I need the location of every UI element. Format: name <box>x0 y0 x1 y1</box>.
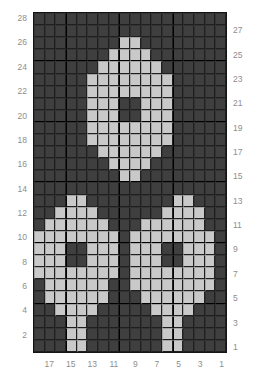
chart-cell[interactable] <box>34 291 45 303</box>
chart-cell[interactable] <box>194 267 205 279</box>
chart-cell[interactable] <box>173 255 184 267</box>
chart-cell[interactable] <box>151 74 162 86</box>
chart-cell[interactable] <box>66 255 77 267</box>
chart-cell[interactable] <box>98 219 109 231</box>
chart-cell[interactable] <box>109 98 120 110</box>
chart-cell[interactable] <box>109 304 120 316</box>
chart-cell[interactable] <box>77 74 88 86</box>
chart-cell[interactable] <box>66 243 77 255</box>
chart-cell[interactable] <box>45 243 56 255</box>
chart-cell[interactable] <box>109 86 120 98</box>
chart-cell[interactable] <box>173 291 184 303</box>
chart-cell[interactable] <box>109 255 120 267</box>
chart-cell[interactable] <box>194 61 205 73</box>
chart-cell[interactable] <box>66 219 77 231</box>
chart-cell[interactable] <box>151 134 162 146</box>
chart-cell[interactable] <box>183 25 194 37</box>
chart-cell[interactable] <box>205 146 216 158</box>
chart-cell[interactable] <box>55 25 66 37</box>
chart-cell[interactable] <box>109 291 120 303</box>
chart-cell[interactable] <box>66 146 77 158</box>
chart-cell[interactable] <box>215 279 226 291</box>
chart-cell[interactable] <box>151 267 162 279</box>
chart-cell[interactable] <box>34 61 45 73</box>
chart-cell[interactable] <box>173 37 184 49</box>
chart-cell[interactable] <box>77 61 88 73</box>
chart-cell[interactable] <box>151 195 162 207</box>
chart-cell[interactable] <box>151 316 162 328</box>
chart-cell[interactable] <box>141 37 152 49</box>
chart-cell[interactable] <box>183 267 194 279</box>
chart-cell[interactable] <box>98 231 109 243</box>
chart-cell[interactable] <box>45 158 56 170</box>
chart-cell[interactable] <box>162 98 173 110</box>
chart-cell[interactable] <box>183 98 194 110</box>
chart-cell[interactable] <box>87 304 98 316</box>
chart-cell[interactable] <box>141 110 152 122</box>
chart-cell[interactable] <box>45 291 56 303</box>
chart-cell[interactable] <box>55 219 66 231</box>
chart-cell[interactable] <box>215 340 226 352</box>
chart-cell[interactable] <box>162 86 173 98</box>
chart-cell[interactable] <box>215 25 226 37</box>
chart-cell[interactable] <box>98 207 109 219</box>
chart-cell[interactable] <box>87 122 98 134</box>
chart-cell[interactable] <box>130 291 141 303</box>
chart-cell[interactable] <box>45 49 56 61</box>
chart-cell[interactable] <box>98 279 109 291</box>
chart-cell[interactable] <box>45 231 56 243</box>
chart-cell[interactable] <box>119 25 130 37</box>
chart-cell[interactable] <box>119 279 130 291</box>
chart-cell[interactable] <box>77 207 88 219</box>
chart-cell[interactable] <box>119 219 130 231</box>
chart-cell[interactable] <box>119 231 130 243</box>
chart-cell[interactable] <box>205 195 216 207</box>
chart-cell[interactable] <box>205 110 216 122</box>
chart-cell[interactable] <box>205 340 216 352</box>
chart-cell[interactable] <box>98 98 109 110</box>
chart-cell[interactable] <box>55 170 66 182</box>
chart-cell[interactable] <box>215 37 226 49</box>
chart-cell[interactable] <box>141 98 152 110</box>
chart-cell[interactable] <box>45 98 56 110</box>
chart-cell[interactable] <box>55 61 66 73</box>
chart-cell[interactable] <box>141 74 152 86</box>
chart-cell[interactable] <box>173 158 184 170</box>
chart-cell[interactable] <box>87 182 98 194</box>
chart-cell[interactable] <box>141 291 152 303</box>
chart-cell[interactable] <box>194 304 205 316</box>
chart-cell[interactable] <box>98 37 109 49</box>
chart-cell[interactable] <box>194 255 205 267</box>
chart-cell[interactable] <box>162 255 173 267</box>
chart-cell[interactable] <box>55 110 66 122</box>
chart-cell[interactable] <box>215 267 226 279</box>
chart-cell[interactable] <box>77 195 88 207</box>
chart-cell[interactable] <box>205 61 216 73</box>
chart-cell[interactable] <box>109 207 120 219</box>
chart-cell[interactable] <box>215 98 226 110</box>
chart-cell[interactable] <box>205 25 216 37</box>
chart-cell[interactable] <box>162 61 173 73</box>
chart-cell[interactable] <box>205 86 216 98</box>
chart-cell[interactable] <box>98 49 109 61</box>
chart-cell[interactable] <box>98 195 109 207</box>
chart-cell[interactable] <box>66 49 77 61</box>
chart-cell[interactable] <box>173 182 184 194</box>
chart-cell[interactable] <box>98 328 109 340</box>
chart-cell[interactable] <box>98 291 109 303</box>
chart-cell[interactable] <box>173 110 184 122</box>
chart-cell[interactable] <box>34 231 45 243</box>
chart-cell[interactable] <box>66 195 77 207</box>
chart-cell[interactable] <box>77 134 88 146</box>
chart-cell[interactable] <box>194 279 205 291</box>
chart-cell[interactable] <box>151 243 162 255</box>
chart-cell[interactable] <box>66 304 77 316</box>
chart-cell[interactable] <box>109 182 120 194</box>
chart-cell[interactable] <box>66 74 77 86</box>
chart-cell[interactable] <box>77 255 88 267</box>
chart-cell[interactable] <box>162 279 173 291</box>
chart-cell[interactable] <box>130 195 141 207</box>
chart-cell[interactable] <box>183 13 194 25</box>
chart-cell[interactable] <box>66 110 77 122</box>
chart-cell[interactable] <box>183 37 194 49</box>
